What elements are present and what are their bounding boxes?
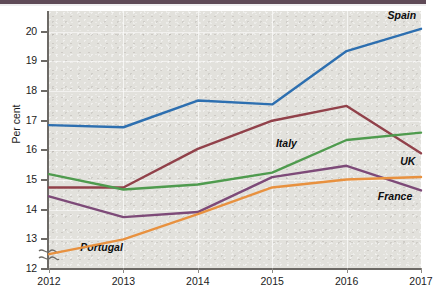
vertical-gridline xyxy=(272,11,273,269)
y-tick-label: 12 xyxy=(0,262,37,274)
x-tick-label: 2014 xyxy=(176,275,220,287)
vertical-gridline xyxy=(347,11,348,269)
series-label-france: France xyxy=(378,190,412,202)
horizontal-gridline xyxy=(49,150,421,151)
y-tick xyxy=(41,179,48,181)
series-label-italy: Italy xyxy=(276,137,297,149)
series-label-spain: Spain xyxy=(388,9,417,21)
y-tick-label: 19 xyxy=(0,54,37,66)
series-label-portugal: Portugal xyxy=(80,241,123,253)
y-tick xyxy=(41,238,48,240)
y-tick xyxy=(41,268,48,270)
y-tick xyxy=(41,120,48,122)
x-tick xyxy=(123,268,124,273)
y-tick-label: 20 xyxy=(0,25,37,37)
horizontal-gridline xyxy=(49,32,421,33)
plot-paper-texture xyxy=(49,11,421,269)
horizontal-gridline xyxy=(49,61,421,62)
y-tick xyxy=(41,149,48,151)
y-tick xyxy=(41,31,48,33)
y-tick-label: 18 xyxy=(0,84,37,96)
vertical-gridline xyxy=(198,11,199,269)
y-tick xyxy=(41,209,48,211)
x-tick xyxy=(421,268,422,273)
horizontal-gridline xyxy=(49,121,421,122)
y-tick-label: 15 xyxy=(0,173,37,185)
y-tick-label: 14 xyxy=(0,203,37,215)
vertical-gridline xyxy=(123,11,124,269)
y-axis-break-icon xyxy=(38,247,60,263)
x-tick-label: 2012 xyxy=(27,275,71,287)
plot-area xyxy=(49,11,421,269)
y-tick xyxy=(41,90,48,92)
horizontal-gridline xyxy=(49,91,421,92)
y-tick-label: 16 xyxy=(0,143,37,155)
horizontal-gridline xyxy=(49,210,421,211)
y-tick-label: 17 xyxy=(0,114,37,126)
x-axis-line xyxy=(47,268,421,270)
series-label-uk: UK xyxy=(400,155,415,167)
x-tick-label: 2015 xyxy=(250,275,294,287)
x-tick-label: 2013 xyxy=(101,275,145,287)
x-tick xyxy=(49,268,50,273)
y-axis-line xyxy=(47,11,49,269)
x-tick xyxy=(272,268,273,273)
x-tick-label: 2016 xyxy=(325,275,369,287)
y-tick-label: 13 xyxy=(0,232,37,244)
x-tick xyxy=(198,268,199,273)
x-tick-label: 2017 xyxy=(399,275,437,287)
horizontal-gridline xyxy=(49,180,421,181)
x-tick xyxy=(347,268,348,273)
y-tick xyxy=(41,60,48,62)
